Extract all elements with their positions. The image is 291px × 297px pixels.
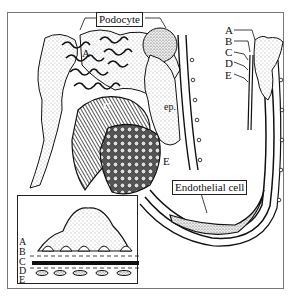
right-key-d: D — [225, 58, 233, 69]
label-ep: ep. — [164, 102, 176, 112]
label-e-main: E — [163, 156, 170, 167]
inset-cross-section — [18, 196, 139, 285]
inset-panel — [17, 195, 138, 284]
label-c-main: C — [103, 101, 111, 112]
endothelial-cell-label: Endothelial cell — [172, 180, 247, 195]
podocyte-label: Podocyte — [96, 12, 143, 27]
label-a-main: A — [82, 48, 90, 59]
right-key-e: E — [225, 70, 232, 81]
inset-key-e: E — [19, 275, 25, 285]
